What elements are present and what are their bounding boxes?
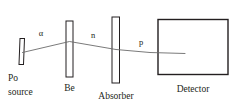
detector-box — [158, 20, 228, 75]
proton-particle-label: p — [139, 37, 143, 47]
be-target-bar — [66, 21, 73, 77]
be-target-component — [66, 21, 73, 77]
physics-diagram: α n p Po source Be Absorber Detector — [0, 0, 234, 112]
be-target-label: Be — [64, 83, 75, 93]
absorber-label: Absorber — [98, 91, 134, 101]
po-source-label-line1: Po — [8, 73, 18, 83]
detector-component — [158, 20, 228, 75]
beam-path-line — [23, 42, 186, 54]
schematic-canvas: α n p Po source Be Absorber Detector — [0, 0, 234, 112]
detector-label: Detector — [177, 84, 211, 94]
alpha-particle-label: α — [39, 28, 44, 38]
po-source-label-line2: source — [8, 87, 33, 97]
neutron-particle-label: n — [91, 30, 96, 40]
po-source-component — [19, 38, 24, 64]
po-source-bar — [19, 38, 24, 64]
